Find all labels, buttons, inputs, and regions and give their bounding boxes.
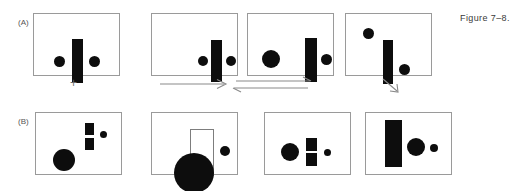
dot-shape: [399, 64, 410, 75]
dot-shape: [100, 131, 107, 138]
semicircle-shape: [174, 153, 214, 191]
row-label-b: (B): [18, 117, 29, 126]
equilibrium-arrow-connector: [230, 76, 314, 94]
dot-shape: [89, 56, 100, 67]
panel-a1-content: [34, 14, 119, 75]
bar-shape: [211, 40, 222, 82]
dot-shape: [321, 54, 332, 65]
panel-a1: [33, 13, 120, 76]
dot-shape: [281, 143, 299, 161]
panel-b2: [151, 112, 238, 175]
dot-shape: [324, 149, 331, 156]
diagonal-arrow-connector: [382, 78, 404, 94]
panel-b1-content: [36, 113, 121, 174]
panel-a4-content: [346, 14, 431, 75]
dot-shape: [198, 56, 208, 66]
panel-b3-content: [265, 113, 350, 174]
dot-shape: [54, 56, 65, 67]
panel-b1: [35, 112, 122, 175]
bar-shape: [385, 120, 402, 167]
dot-shape: [262, 50, 280, 68]
panel-a2: [151, 13, 238, 76]
dot-shape: [220, 146, 230, 156]
single-arrow-connector: [160, 78, 230, 92]
panel-b4: [365, 112, 452, 175]
figure-caption: Figure 7–8.: [460, 13, 510, 23]
bar-shape: [85, 123, 94, 150]
panel-b3: [264, 112, 351, 175]
panel-a3-content: [248, 14, 333, 75]
dot-shape: [430, 144, 438, 152]
figure-7-8: (A) +: [0, 0, 528, 191]
panel-a4: [345, 13, 432, 76]
bar-shape: [306, 138, 317, 166]
plus-sign-label: +: [70, 77, 77, 89]
dot-shape: [226, 56, 236, 66]
dot-shape: [53, 149, 75, 171]
dot-shape: [407, 138, 425, 156]
panel-b4-content: [366, 113, 451, 174]
plus-connector: +: [70, 77, 84, 91]
dot-shape: [363, 28, 374, 39]
panel-a2-content: [152, 14, 237, 75]
panel-b2-content: [152, 113, 237, 174]
row-label-a: (A): [18, 18, 29, 27]
panel-a3: [247, 13, 334, 76]
